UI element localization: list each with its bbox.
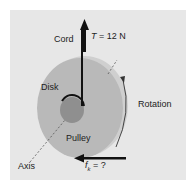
tension-value: = 12 N — [97, 31, 126, 41]
pulley — [60, 97, 84, 123]
rotation-label: Rotation — [138, 100, 172, 109]
disk-label: Disk — [41, 83, 59, 92]
pulley-label: Pulley — [66, 134, 91, 143]
axis-label: Axis — [18, 162, 35, 171]
friction-label: fk = ? — [85, 161, 106, 172]
cord-label: Cord — [54, 35, 74, 44]
tension-label: T = 12 N — [91, 32, 126, 41]
friction-value: = ? — [91, 160, 106, 170]
tension-arrow-shaft — [83, 30, 86, 52]
tension-arrow-head — [80, 19, 89, 30]
